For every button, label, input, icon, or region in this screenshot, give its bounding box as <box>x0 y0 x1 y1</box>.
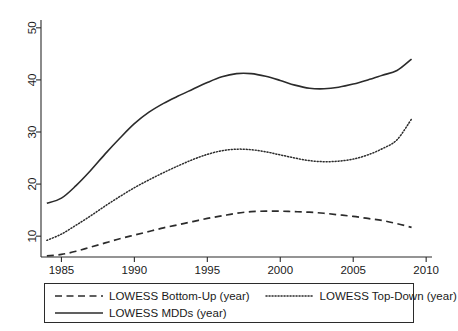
data-series-group <box>47 59 412 256</box>
y-tick-label: 20 <box>26 178 38 191</box>
series-line-dotted <box>47 119 412 240</box>
legend-row: LOWESS MDDs (year) <box>45 304 413 321</box>
x-tick-label: 1990 <box>122 264 148 276</box>
x-axis-ticks: 198519901995200020052010 <box>49 257 439 276</box>
x-tick-label: 2010 <box>413 264 439 276</box>
legend-item-bottom-up: LOWESS Bottom-Up (year) <box>45 290 250 302</box>
legend-row: LOWESS Bottom-Up (year) LOWESS Top-Down … <box>45 287 413 304</box>
y-tick-label: 40 <box>26 74 38 87</box>
chart-legend: LOWESS Bottom-Up (year) LOWESS Top-Down … <box>44 283 414 323</box>
legend-item-top-down: LOWESS Top-Down (year) <box>250 290 457 302</box>
x-tick-label: 1985 <box>49 264 75 276</box>
legend-label-mdds: LOWESS MDDs (year) <box>105 307 227 319</box>
legend-key-solid-icon <box>53 307 105 319</box>
legend-label-bottom-up: LOWESS Bottom-Up (year) <box>105 290 250 302</box>
x-tick-label: 2005 <box>340 264 366 276</box>
x-tick-label: 2000 <box>267 264 293 276</box>
y-tick-label: 10 <box>26 230 38 243</box>
legend-key-dashed-icon <box>53 290 105 302</box>
legend-label-top-down: LOWESS Top-Down (year) <box>316 290 457 302</box>
x-tick-label: 1995 <box>195 264 221 276</box>
series-line-dashed <box>47 211 412 256</box>
line-chart-plot: 1020304050 198519901995200020052010 <box>0 0 458 331</box>
y-axis: 1020304050 <box>26 20 41 257</box>
x-axis: 198519901995200020052010 <box>41 257 439 276</box>
y-tick-label: 50 <box>26 21 38 34</box>
legend-item-mdds: LOWESS MDDs (year) <box>45 307 227 319</box>
chart-figure: 1020304050 198519901995200020052010 LOWE… <box>0 0 458 331</box>
y-tick-label: 30 <box>26 126 38 139</box>
series-line-solid <box>47 59 412 203</box>
legend-key-dotted-icon <box>264 290 316 302</box>
y-axis-ticks: 1020304050 <box>26 21 41 242</box>
